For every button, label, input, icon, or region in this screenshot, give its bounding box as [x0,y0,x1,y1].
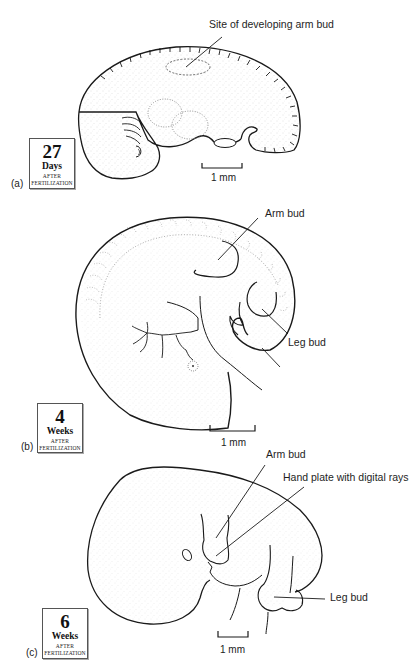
age-badge-27-days: 27 Days AFTER FERTILIZATION [29,138,75,189]
scale-label-a: 1 mm [211,172,236,183]
panel-label-c: (c) [26,647,38,658]
scale-label-b: 1 mm [221,437,246,448]
age-badge-4-weeks: 4 Weeks AFTER FERTILIZATION [37,403,83,453]
age-after: AFTER [43,643,87,650]
annotation-arm-bud-c: Arm bud [266,448,306,460]
age-number: 6 [43,613,87,631]
embryo-6-weeks [88,465,325,637]
age-after: AFTER [38,438,82,445]
scale-bar-c [218,631,248,637]
annotation-leg-bud-b: Leg bud [288,336,326,348]
annotation-leg-bud-c: Leg bud [330,591,368,603]
annotation-hand-plate: Hand plate with digital rays [283,471,408,483]
age-unit: Weeks [43,631,87,641]
annotation-arm-bud-b: Arm bud [265,207,305,219]
age-unit: Days [30,161,74,171]
embryo-illustrations [0,0,418,672]
annotation-arm-bud-site: Site of developing arm bud [209,18,334,30]
age-fertilization: FERTILIZATION [38,445,82,452]
embryo-27-days [79,37,301,179]
age-fertilization: FERTILIZATION [30,180,74,187]
age-number: 4 [38,408,82,426]
age-fertilization: FERTILIZATION [43,650,87,657]
panel-label-b: (b) [21,441,33,452]
age-after: AFTER [30,173,74,180]
age-number: 27 [30,143,74,161]
scale-label-c: 1 mm [220,644,245,655]
age-badge-6-weeks: 6 Weeks AFTER FERTILIZATION [42,608,88,659]
embryo-4-weeks [76,217,295,431]
scale-bar-a [202,163,242,168]
age-unit: Weeks [38,426,82,436]
panel-label-a: (a) [11,178,23,189]
